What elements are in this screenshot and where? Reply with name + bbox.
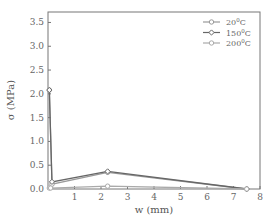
y-tick-label: 0.5 xyxy=(30,160,45,170)
y-axis-label: σ (MPa) xyxy=(5,80,16,120)
circle-marker-icon xyxy=(48,186,52,190)
legend-item: 2000C xyxy=(203,38,251,48)
y-tick-label: 2.5 xyxy=(30,65,45,75)
x-tick-label: 4 xyxy=(151,192,157,202)
circle-marker-icon xyxy=(209,20,213,24)
circle-marker-icon xyxy=(209,41,213,45)
x-tick-label: 5 xyxy=(178,192,184,202)
x-tick-label: 1 xyxy=(72,192,78,202)
legend-label: 2000C xyxy=(226,38,251,48)
legend-label: 200C xyxy=(226,17,246,27)
x-axis-label: w (mm) xyxy=(135,204,174,215)
data-series xyxy=(47,87,250,191)
diamond-marker-icon xyxy=(209,30,214,35)
series-line xyxy=(47,87,250,191)
y-tick-label: 3.0 xyxy=(30,41,45,51)
legend-item: 200C xyxy=(203,17,246,27)
y-tick-label: 2.0 xyxy=(30,89,45,99)
x-tick-label: 6 xyxy=(204,192,210,202)
circle-marker-icon xyxy=(105,184,109,188)
x-tick-label: 8 xyxy=(257,192,263,202)
line-chart: 0.00.51.01.52.02.53.03.5 12345678 200C15… xyxy=(0,0,275,224)
series-line xyxy=(47,88,249,191)
y-tick-label: 1.5 xyxy=(30,113,45,123)
legend: 200C1500C2000C xyxy=(203,17,251,48)
x-tick-label: 7 xyxy=(231,192,237,202)
y-tick-label: 0.0 xyxy=(30,184,45,194)
x-tick-label: 2 xyxy=(98,192,104,202)
y-tick-label: 3.5 xyxy=(30,17,45,27)
x-tick-label: 3 xyxy=(125,192,131,202)
y-tick-label: 1.0 xyxy=(30,136,45,146)
legend-label: 1500C xyxy=(226,28,251,38)
legend-item: 1500C xyxy=(203,28,251,38)
circle-marker-icon xyxy=(245,187,249,191)
